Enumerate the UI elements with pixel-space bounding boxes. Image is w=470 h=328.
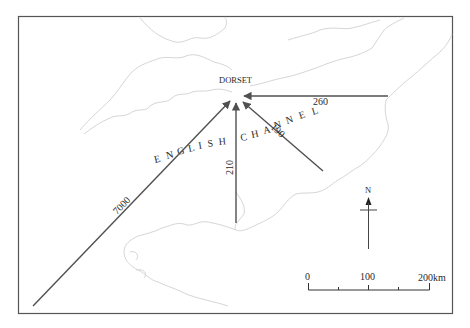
flow-arrow-7000 bbox=[33, 101, 230, 306]
svg-text:S: S bbox=[207, 137, 214, 149]
svg-text:L: L bbox=[187, 142, 195, 154]
place-label-dorset: DORSET bbox=[219, 75, 253, 85]
svg-text:N: N bbox=[284, 113, 294, 126]
svg-text:N: N bbox=[273, 118, 283, 131]
scale-bar bbox=[309, 283, 430, 290]
map-figure: DORSET 7000 210 190 260 E N G L I S H C … bbox=[0, 0, 470, 328]
svg-text:I: I bbox=[197, 140, 202, 151]
svg-text:H: H bbox=[250, 128, 259, 140]
svg-text:N: N bbox=[165, 149, 175, 161]
scale-label-200km: 200km bbox=[418, 272, 446, 283]
scale-label-100: 100 bbox=[360, 271, 375, 282]
svg-text:H: H bbox=[218, 135, 226, 147]
north-arrow: N bbox=[360, 185, 377, 249]
svg-text:E: E bbox=[153, 153, 162, 165]
flow-label-7000: 7000 bbox=[111, 194, 133, 216]
svg-text:E: E bbox=[297, 109, 306, 121]
svg-text:C: C bbox=[239, 131, 248, 143]
coastline-outlines bbox=[80, 17, 452, 306]
scale-label-0: 0 bbox=[305, 271, 310, 282]
flow-label-210: 210 bbox=[224, 160, 235, 175]
flow-arrows bbox=[33, 96, 388, 306]
north-label: N bbox=[365, 185, 371, 195]
svg-text:G: G bbox=[176, 145, 186, 157]
